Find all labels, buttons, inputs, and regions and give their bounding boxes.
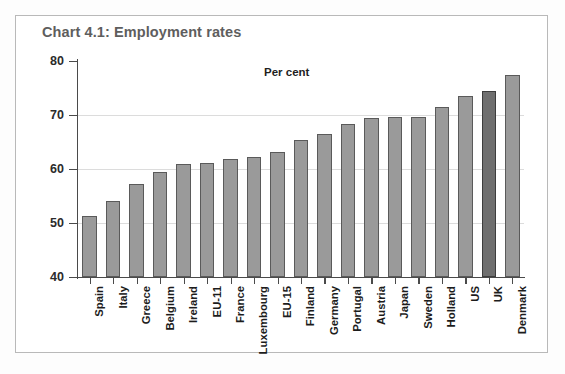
x-axis-label-eu-15: EU-15 (282, 286, 293, 318)
x-axis-tick (348, 278, 349, 284)
bar-uk (482, 91, 497, 277)
x-axis-tick (254, 278, 255, 284)
bar-italy (106, 201, 121, 277)
x-axis-category-labels: SpainItalyGreeceBelgiumIrelandEU-11Franc… (78, 286, 524, 366)
bar-eu-15 (270, 152, 285, 277)
y-axis-tick-label: 60 (36, 162, 64, 176)
x-axis-tick (371, 278, 372, 284)
x-axis-label-france: France (235, 286, 246, 323)
bar-japan (388, 117, 403, 277)
x-axis-tick (113, 278, 114, 284)
x-axis-label-finland: Finland (305, 286, 316, 326)
x-axis-label-spain: Spain (94, 286, 105, 317)
x-axis-tick (512, 278, 513, 284)
bar-holland (435, 107, 450, 277)
bar-eu-11 (200, 163, 215, 277)
y-axis-tick (69, 169, 78, 170)
x-axis-tick (90, 278, 91, 284)
bar-spain (82, 216, 97, 277)
bar-denmark (505, 75, 520, 277)
y-axis-tick-label: 50 (36, 216, 64, 230)
x-axis-label-denmark: Denmark (517, 286, 528, 334)
x-axis-tick (137, 278, 138, 284)
x-axis-tick (231, 278, 232, 284)
y-axis-tick (69, 115, 78, 116)
bar-germany (317, 134, 332, 277)
x-axis-tick (395, 278, 396, 284)
x-axis-label-us: US (470, 286, 481, 302)
y-axis-tick-label: 40 (36, 270, 64, 284)
x-axis-label-sweden: Sweden (423, 286, 434, 329)
x-axis-tick (278, 278, 279, 284)
bar-finland (294, 140, 309, 277)
chart-title: Chart 4.1: Employment rates (42, 24, 241, 40)
x-axis-label-luxembourg: Luxembourg (258, 286, 269, 354)
x-axis-tick (184, 278, 185, 284)
x-axis-label-germany: Germany (329, 286, 340, 335)
x-axis-label-belgium: Belgium (165, 286, 176, 331)
x-axis-tick (301, 278, 302, 284)
x-axis-label-japan: Japan (399, 286, 410, 319)
bar-belgium (153, 172, 168, 277)
bar-luxembourg (247, 157, 262, 277)
y-axis-tick-label: 80 (36, 54, 64, 68)
bar-sweden (411, 117, 426, 277)
chart-page: Chart 4.1: Employment rates Per cent 405… (0, 0, 565, 374)
x-axis-tick (324, 278, 325, 284)
x-axis-label-portugal: Portugal (352, 286, 363, 332)
y-axis-tick (69, 223, 78, 224)
bar-ireland (176, 164, 191, 277)
y-axis-tick-label: 70 (36, 108, 64, 122)
x-axis-label-uk: UK (493, 286, 504, 302)
bar-austria (364, 118, 379, 277)
plot-area (78, 61, 524, 277)
x-axis-label-greece: Greece (141, 286, 152, 324)
x-axis-label-holland: Holland (446, 286, 457, 327)
y-axis-tick (69, 61, 78, 62)
x-axis-tick (489, 278, 490, 284)
x-axis-label-austria: Austria (376, 286, 387, 325)
x-axis-label-italy: Italy (118, 286, 129, 309)
bar-greece (129, 184, 144, 277)
bar-us (458, 96, 473, 277)
bar-portugal (341, 124, 356, 277)
x-axis-label-ireland: Ireland (188, 286, 199, 323)
x-axis-tick (465, 278, 466, 284)
x-axis-ticks (78, 278, 524, 284)
y-axis-tick (69, 277, 78, 278)
bar-france (223, 159, 238, 277)
x-axis-tick (207, 278, 208, 284)
x-axis-label-eu-11: EU-11 (212, 286, 223, 317)
y-axis-tick-labels: 4050607080 (28, 0, 64, 374)
x-axis-tick (418, 278, 419, 284)
x-axis-tick (160, 278, 161, 284)
x-axis-tick (442, 278, 443, 284)
